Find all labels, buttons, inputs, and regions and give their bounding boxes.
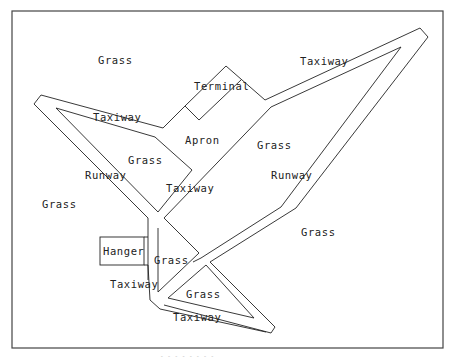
label-apron: Apron xyxy=(185,134,220,146)
apron-right-edge xyxy=(164,107,271,218)
label-grass-bottom-triangle: Grass xyxy=(186,288,221,300)
label-grass-far-left: Grass xyxy=(42,198,77,210)
caption: - - - - - - - - xyxy=(160,352,214,359)
label-taxiway-left: Taxiway xyxy=(93,111,141,123)
label-taxiway-top-right: Taxiway xyxy=(300,55,348,67)
label-taxiway-lower-left: Taxiway xyxy=(110,278,158,290)
label-taxiway-center: Taxiway xyxy=(166,182,214,194)
map-frame xyxy=(12,11,443,348)
label-grass-small-triangle: Grass xyxy=(154,254,189,266)
label-taxiway-bottom: Taxiway xyxy=(173,311,221,323)
label-runway-left: Runway xyxy=(85,169,127,181)
label-grass-right: Grass xyxy=(301,226,336,238)
label-grass-top-left: Grass xyxy=(98,54,133,66)
apron-top-edge xyxy=(163,66,265,128)
label-runway-right: Runway xyxy=(271,169,313,181)
runway-main-edge-b xyxy=(193,207,281,262)
label-terminal: Terminal xyxy=(194,80,249,92)
taxiway-right-lower-edge xyxy=(271,47,401,207)
label-grass-inner-left: Grass xyxy=(128,154,163,166)
airport-diagram: Grass Taxiway Terminal Taxiway Apron Gra… xyxy=(0,0,453,360)
label-grass-center: Grass xyxy=(257,139,292,151)
label-hanger: Hanger xyxy=(103,245,145,257)
apron-left-edge xyxy=(155,137,192,212)
